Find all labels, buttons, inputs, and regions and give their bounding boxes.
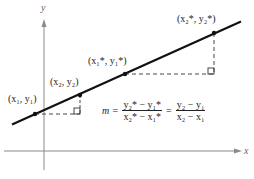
point-x1-y1: [33, 112, 37, 116]
x-axis-arrow-icon: [234, 149, 242, 154]
fraction-plain-denominator: x₂ − x₁: [176, 110, 206, 122]
point-x2s-y2s: [212, 31, 216, 35]
label-x2s-y2s: (x₂*, y₂*): [177, 13, 216, 24]
fraction-plain: y₂ − y₁ x₂ − x₁: [176, 99, 206, 122]
label-x2-y2: (x₂, y₂): [50, 76, 79, 87]
x-axis-label: x: [244, 145, 248, 156]
right-angle-icon-1: [74, 108, 80, 114]
point-x1s-y1s: [123, 72, 127, 76]
formula-equals: =: [166, 105, 172, 116]
label-x1s-y1s: (x₁*, y₁*): [88, 55, 127, 66]
y-axis-arrow-icon: [42, 19, 47, 27]
point-x2-y2: [78, 93, 82, 97]
fraction-plain-numerator: y₂ − y₁: [176, 99, 206, 110]
label-x1-y1: (x₁, y₁): [8, 93, 37, 104]
slope-diagram: [0, 0, 254, 179]
fraction-starred: y₂* − y₁* x₂* − x₁*: [122, 99, 162, 122]
formula-lhs: m =: [102, 105, 118, 116]
y-axis-label: y: [41, 2, 45, 13]
right-angle-icon-2: [208, 68, 214, 74]
slope-formula: m = y₂* − y₁* x₂* − x₁* = y₂ − y₁ x₂ − x…: [100, 99, 207, 122]
fraction-starred-numerator: y₂* − y₁*: [122, 99, 162, 110]
fraction-starred-denominator: x₂* − x₁*: [122, 110, 162, 122]
